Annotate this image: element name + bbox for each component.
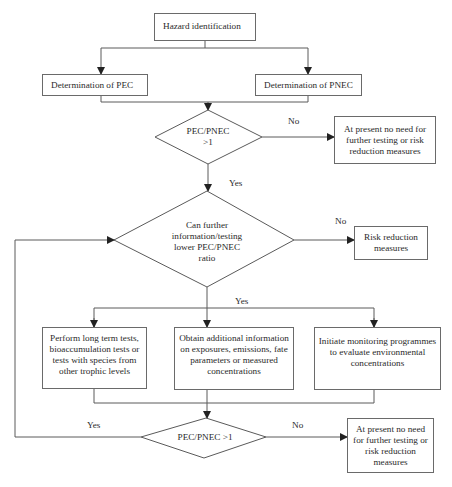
- decision-3-label: PEC/PNEC >1: [178, 432, 233, 443]
- monitoring-box: Initiate monitoring programmes to evalua…: [314, 327, 441, 390]
- decision-1-text: PEC/PNEC >1: [170, 120, 246, 154]
- decision-2-no-label: No: [335, 216, 346, 227]
- decision-3-text: PEC/PNEC >1: [160, 430, 250, 444]
- additional-info-label: Obtain additional information on exposur…: [178, 333, 290, 377]
- decision-2-line3: lower PEC/PNEC: [174, 242, 240, 253]
- decision-2-text: Can further information/testing lower PE…: [160, 218, 254, 266]
- decision-1-line1: PEC/PNEC: [187, 126, 230, 137]
- no-need-box-2: At present no need for further testing o…: [347, 418, 434, 473]
- long-term-tests-box: Perform long term tests, bioaccumulation…: [42, 327, 147, 389]
- hazard-identification-box: Hazard identification: [154, 13, 256, 41]
- decision-2-line4: ratio: [199, 253, 216, 264]
- risk-reduction-label: Risk reduction measures: [358, 232, 424, 254]
- decision-2-line2: information/testing: [172, 231, 242, 242]
- decision-2-yes-label: Yes: [235, 296, 248, 307]
- decision-1-no-label: No: [288, 116, 299, 127]
- determination-pec-label: Determination of PEC: [51, 80, 133, 91]
- decision-3-yes-label: Yes: [87, 420, 100, 431]
- determination-pec-box: Determination of PEC: [42, 74, 148, 96]
- decision-1-yes-label: Yes: [229, 178, 242, 189]
- no-need-box-1: At present no need for further testing o…: [334, 116, 436, 164]
- no-need-label-2: At present no need for further testing o…: [351, 424, 430, 468]
- long-term-tests-label: Perform long term tests, bioaccumulation…: [46, 333, 143, 377]
- decision-2-line1: Can further: [186, 220, 228, 231]
- risk-reduction-box: Risk reduction measures: [354, 226, 428, 260]
- determination-pnec-box: Determination of PNEC: [255, 74, 362, 96]
- hazard-identification-label: Hazard identification: [163, 21, 241, 32]
- additional-info-box: Obtain additional information on exposur…: [174, 327, 294, 390]
- monitoring-label: Initiate monitoring programmes to evalua…: [318, 336, 437, 369]
- decision-1-line2: >1: [203, 137, 213, 148]
- no-need-label-1: At present no need for further testing o…: [338, 124, 432, 157]
- determination-pnec-label: Determination of PNEC: [264, 80, 353, 91]
- decision-3-no-label: No: [292, 420, 303, 431]
